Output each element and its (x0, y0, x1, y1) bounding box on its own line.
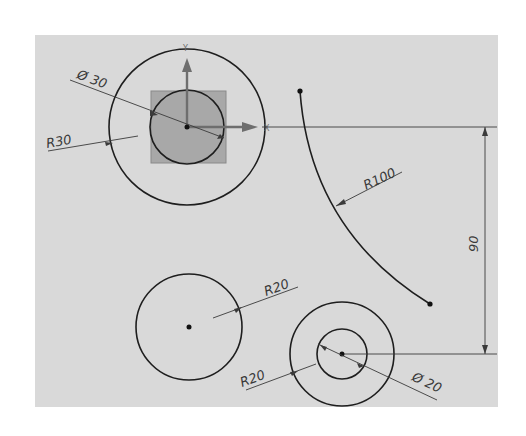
y-axis-label: Y (182, 44, 188, 53)
dimension-label: 90 (466, 235, 481, 252)
x-axis-label: X (264, 124, 270, 133)
drawing-background (35, 35, 498, 407)
sketch-canvas[interactable]: Y X Ø 30 R30 R100 90 (0, 0, 526, 436)
origin-point (185, 125, 190, 130)
